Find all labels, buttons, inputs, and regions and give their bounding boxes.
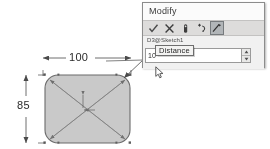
chevron-down-icon bbox=[244, 57, 249, 61]
mark-for-drawing-icon bbox=[212, 23, 222, 33]
rebuild-button[interactable] bbox=[178, 21, 192, 35]
dialog-toolbar bbox=[143, 20, 264, 36]
spinner-up-button[interactable] bbox=[242, 49, 250, 56]
chevron-up-icon bbox=[244, 50, 249, 54]
value-spinner[interactable] bbox=[242, 48, 251, 63]
distance-tooltip-label: Distance bbox=[159, 46, 190, 55]
cancel-button[interactable] bbox=[162, 21, 176, 35]
parameter-name-label: D3@Sketch1 bbox=[147, 37, 183, 43]
spinner-down-button[interactable] bbox=[242, 56, 250, 62]
checkmark-icon bbox=[148, 23, 159, 34]
reverse-direction-icon bbox=[196, 23, 207, 34]
height-dimension-value[interactable]: 85 bbox=[17, 99, 30, 111]
reverse-direction-button[interactable] bbox=[194, 21, 208, 35]
width-dimension-value[interactable]: 100 bbox=[69, 51, 88, 63]
dialog-titlebar[interactable]: Modify bbox=[143, 3, 264, 20]
mark-for-drawing-button[interactable] bbox=[210, 21, 224, 35]
cad-application-screenshot: 100 85 Modify bbox=[0, 0, 270, 149]
accept-checkmark-button[interactable] bbox=[146, 21, 160, 35]
rebuild-icon bbox=[180, 23, 191, 34]
cancel-x-icon bbox=[164, 23, 175, 34]
dialog-title: Modify bbox=[149, 6, 177, 16]
arrow-pointer-icon bbox=[155, 66, 164, 79]
distance-tooltip: Distance bbox=[155, 45, 194, 56]
modify-dialog: Modify bbox=[142, 2, 265, 68]
